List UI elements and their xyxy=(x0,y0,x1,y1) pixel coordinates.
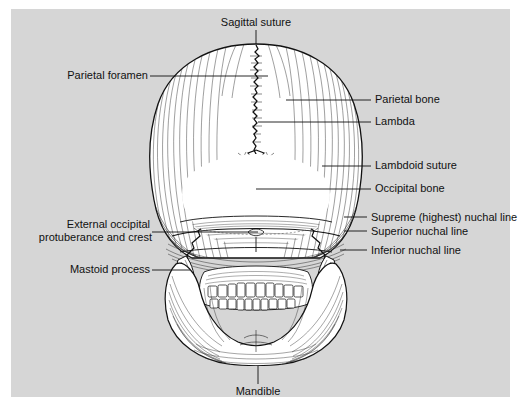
label-layer: Sagittal suture Parietal foramen Parieta… xyxy=(0,0,521,407)
label-external-occipital-line1: External occipital xyxy=(0,218,150,231)
label-mastoid-process: Mastoid process xyxy=(0,263,150,276)
label-sagittal-suture: Sagittal suture xyxy=(186,16,326,29)
label-occipital-bone: Occipital bone xyxy=(375,182,445,195)
label-parietal-foramen: Parietal foramen xyxy=(0,69,148,82)
label-lambdoid-suture: Lambdoid suture xyxy=(375,159,457,172)
figure-root: Sagittal suture Parietal foramen Parieta… xyxy=(0,0,521,407)
label-lambda: Lambda xyxy=(375,115,415,128)
label-parietal-bone: Parietal bone xyxy=(375,93,440,106)
label-supreme-nuchal-line: Supreme (highest) nuchal line xyxy=(371,211,517,224)
label-inferior-nuchal-line: Inferior nuchal line xyxy=(371,244,461,257)
label-external-occipital-line2: protuberance and crest xyxy=(0,231,152,244)
label-mandible: Mandible xyxy=(188,385,328,398)
label-superior-nuchal-line: Superior nuchal line xyxy=(371,225,468,238)
